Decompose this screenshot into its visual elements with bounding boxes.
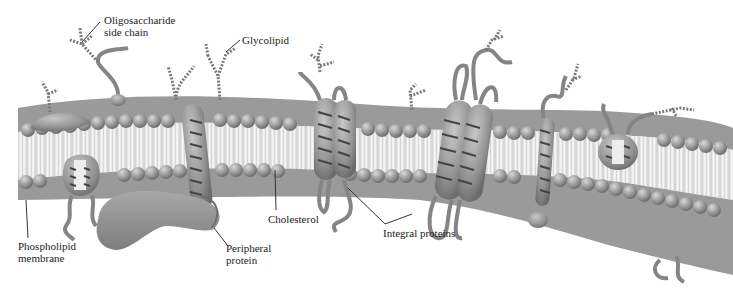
label-phospholipid-line2: membrane xyxy=(18,252,76,264)
label-peripheral: Peripheral protein xyxy=(226,242,271,266)
oligosaccharide-side-chain xyxy=(70,28,128,106)
label-oligosaccharide-line1: Oligosaccharide xyxy=(104,14,175,26)
glycolipid-chain xyxy=(168,44,236,100)
label-peripheral-line2: protein xyxy=(226,254,271,266)
peripheral-protein xyxy=(97,191,220,250)
glycolipid-chain-middle xyxy=(410,84,426,110)
membrane-diagram: Oligosaccharide side chain Glycolipid Ph… xyxy=(0,0,733,293)
label-phospholipid: Phospholipid membrane xyxy=(18,240,76,264)
label-peripheral-line1: Peripheral xyxy=(226,242,271,254)
label-integral-proteins: Integral proteins xyxy=(383,227,455,239)
membrane-illustration xyxy=(0,0,733,293)
label-oligosaccharide: Oligosaccharide side chain xyxy=(104,14,175,38)
label-oligosaccharide-line2: side chain xyxy=(104,26,175,38)
label-phospholipid-line1: Phospholipid xyxy=(18,240,76,252)
label-glycolipid: Glycolipid xyxy=(242,34,289,46)
label-cholesterol: Cholesterol xyxy=(268,213,319,225)
